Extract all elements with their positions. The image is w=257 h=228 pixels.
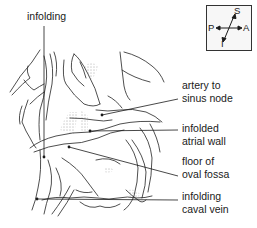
label-line: atrial wall	[182, 135, 226, 148]
label-infolded-atrial-wall: infolded atrial wall	[182, 122, 226, 147]
compass-superior: S	[234, 6, 240, 16]
compass-posterior: P	[208, 23, 214, 33]
label-line: caval vein	[182, 203, 229, 216]
label-line: infolded	[182, 122, 226, 135]
anatomical-diagram: infolding artery to sinus node infolded …	[0, 0, 257, 228]
label-line: infolding	[182, 190, 229, 203]
label-artery-to-sinus-node: artery to sinus node	[182, 79, 233, 104]
label-floor-of-oval-fossa: floor of oval fossa	[182, 155, 229, 180]
orientation-compass: S I P A	[206, 5, 252, 51]
label-infolding-top: infolding	[27, 10, 66, 23]
label-line: artery to	[182, 79, 233, 92]
compass-inferior: I	[221, 39, 224, 49]
label-line: sinus node	[182, 92, 233, 105]
label-infolding-caval-vein: infolding caval vein	[182, 190, 229, 215]
compass-anterior: A	[243, 23, 249, 33]
leader-lines	[37, 26, 178, 200]
label-line: floor of	[182, 155, 229, 168]
label-line: oval fossa	[182, 168, 229, 181]
